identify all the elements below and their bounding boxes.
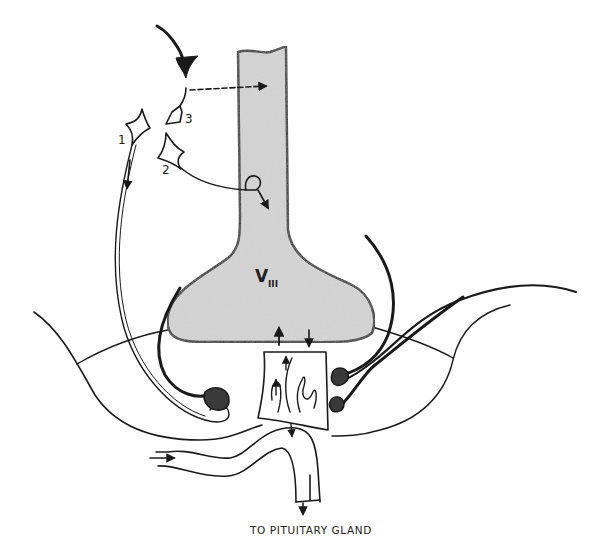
third-ventricle <box>167 46 374 342</box>
neuron-3-label: 3 <box>185 112 193 126</box>
left-dark-terminal <box>204 388 229 410</box>
neuron-2-axon <box>181 168 246 190</box>
dark-neuron-body <box>176 56 198 78</box>
pituitary-caption: TO PITUITARY GLAND <box>249 524 372 536</box>
neuron-2-label: 2 <box>162 163 170 177</box>
right-dark-terminal-upper <box>331 368 348 385</box>
portal-vessel-end <box>296 475 320 502</box>
artery-lower-wall <box>158 448 296 502</box>
capillary-arrow-down <box>291 424 292 436</box>
median-eminence <box>258 352 328 430</box>
neuron-3-axon <box>180 88 186 106</box>
boundary-line-left <box>77 330 168 364</box>
neuron-1-body <box>126 109 150 145</box>
neuron-3-body <box>166 106 182 124</box>
ventricle-subscript: III <box>268 279 278 289</box>
neuron-1-axon-inner <box>119 145 205 416</box>
right-dark-terminal-lower <box>329 397 344 412</box>
hypothalamus-diagram: V III 3 2 1 TO PITUITARY GLAND <box>0 0 602 560</box>
ventricle-label: V <box>255 266 269 286</box>
neuron-1-label: 1 <box>118 133 126 147</box>
dark-neuron-dendrite <box>157 26 184 62</box>
capillary-loop-3 <box>297 377 316 412</box>
